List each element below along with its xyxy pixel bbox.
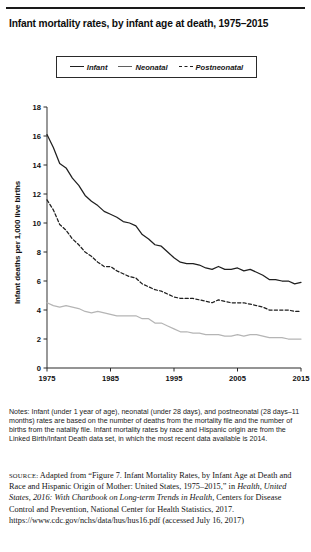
legend-label-infant: Infant <box>87 63 108 72</box>
chart-area: Infant deaths per 1,000 live births 0246… <box>0 88 311 388</box>
source-label: SOURCE: <box>9 472 38 479</box>
legend-label-neonatal: Neonatal <box>135 63 167 72</box>
chart-series <box>47 135 301 339</box>
svg-text:14: 14 <box>33 161 42 170</box>
series-line-postneonatal <box>47 303 301 339</box>
page-title: Infant mortality rates, by infant age at… <box>9 18 304 30</box>
svg-text:6: 6 <box>37 277 41 286</box>
series-line-infant <box>47 135 301 284</box>
legend-label-postneonatal: Postneonatal <box>196 63 244 72</box>
figure-page: Infant mortality rates, by infant age at… <box>0 0 311 552</box>
svg-text:4: 4 <box>37 306 42 315</box>
chart-legend: Infant Neonatal Postneonatal <box>56 56 257 78</box>
x-axis-ticks: 19751985199520052015 <box>39 368 311 383</box>
svg-text:16: 16 <box>33 132 41 141</box>
svg-text:10: 10 <box>33 219 41 228</box>
svg-text:1985: 1985 <box>102 374 120 383</box>
svg-text:8: 8 <box>37 248 41 257</box>
svg-text:2: 2 <box>37 335 41 344</box>
svg-text:1975: 1975 <box>39 374 57 383</box>
svg-text:2015: 2015 <box>293 374 311 383</box>
svg-text:1995: 1995 <box>166 374 184 383</box>
top-divider <box>6 7 305 9</box>
svg-text:12: 12 <box>33 190 41 199</box>
svg-text:0: 0 <box>37 364 41 373</box>
line-chart-svg: 024681012141618 19751985199520052015 <box>0 88 311 388</box>
legend-item-infant: Infant <box>70 63 108 72</box>
figure-source: SOURCE: Adapted from “Figure 7. Infant M… <box>9 470 303 526</box>
legend-item-neonatal: Neonatal <box>118 63 167 72</box>
figure-notes: Notes: Infant (under 1 year of age), neo… <box>9 408 303 444</box>
y-axis-ticks: 024681012141618 <box>33 103 47 373</box>
legend-item-postneonatal: Postneonatal <box>179 63 244 72</box>
series-line-neonatal <box>47 200 301 312</box>
svg-text:18: 18 <box>33 103 41 112</box>
svg-text:2005: 2005 <box>229 374 247 383</box>
